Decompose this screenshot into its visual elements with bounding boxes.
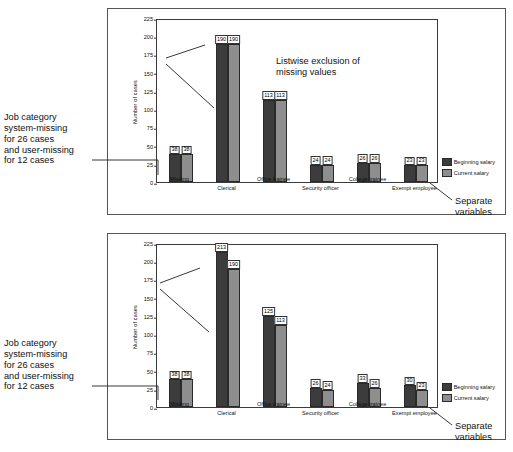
bar-value-label: 113: [274, 316, 287, 325]
y-tick-mark: [154, 38, 157, 39]
legend-swatch: [442, 394, 452, 402]
bar-beginning-salary[interactable]: 24: [310, 165, 322, 182]
legend-item[interactable]: Current salary: [442, 394, 495, 402]
x-axis-category-label: Missing: [170, 177, 189, 183]
x-axis-category-label: Office trainee: [257, 402, 290, 408]
bar-value-label: 24: [310, 156, 321, 165]
bar-current-salary[interactable]: 113: [275, 100, 287, 182]
y-axis-tick: 175: [113, 54, 157, 60]
bar-value-label: 24: [322, 156, 333, 165]
y-axis-tick: 150: [113, 297, 157, 303]
bar-group: 2624: [298, 388, 345, 407]
x-axis-category-label: College trainee: [349, 177, 387, 183]
y-axis-tick: 200: [113, 260, 157, 266]
x-axis-category-label: Security officer: [302, 186, 339, 192]
y-axis-title-bottom: Number of cases: [132, 305, 138, 349]
legend-item[interactable]: Beginning salary: [442, 158, 495, 166]
legend-item[interactable]: Beginning salary: [442, 383, 495, 391]
y-axis-tick: 150: [113, 72, 157, 78]
bar-value-label: 30: [404, 377, 415, 386]
bar-value-label: 26: [310, 379, 321, 388]
y-tick-mark: [154, 184, 157, 185]
bar-beginning-salary[interactable]: 190: [216, 44, 228, 182]
bar-value-label: 190: [227, 35, 241, 44]
bar-value-label: 213: [215, 243, 229, 252]
x-axis-line-bottom: [157, 407, 437, 408]
y-tick-mark: [154, 111, 157, 112]
bar-value-label: 23: [404, 157, 415, 166]
bar-current-salary[interactable]: 23: [416, 390, 428, 407]
bar-value-label: 24: [322, 381, 333, 390]
y-axis-tick: 225: [113, 242, 157, 248]
y-tick-mark: [154, 147, 157, 148]
y-tick-mark: [154, 354, 157, 355]
plot-area-top: 0255075100125150175200225383819019011311…: [156, 19, 438, 183]
bar-value-label: 38: [169, 371, 180, 380]
y-tick-mark: [154, 263, 157, 264]
legend-label: Beginning salary: [454, 384, 495, 390]
legend-swatch: [442, 169, 452, 177]
figure-root: 0255075100125150175200225383819019011311…: [0, 0, 513, 452]
y-axis-tick: 225: [113, 17, 157, 23]
y-axis-tick: 75: [113, 127, 157, 133]
y-tick-mark: [154, 281, 157, 282]
x-axis-line-top: [157, 182, 437, 183]
legend-bottom: Beginning salaryCurrent salary: [442, 383, 495, 405]
bar-group: 213190: [204, 252, 251, 407]
y-axis-tick: 200: [113, 35, 157, 41]
bar-group: 125113: [251, 316, 298, 407]
x-axis-category-label: Security officer: [302, 411, 339, 417]
bar-value-label: 125: [262, 307, 276, 316]
bar-group: 113113: [251, 100, 298, 182]
bar-beginning-salary[interactable]: 125: [263, 316, 275, 407]
bar-value-label: 26: [369, 379, 380, 388]
y-axis-title-top: Number of cases: [132, 80, 138, 124]
legend-swatch: [442, 158, 452, 166]
x-axis-category-label: Office trainee: [257, 177, 290, 183]
x-axis-category-label: Missing: [170, 402, 189, 408]
y-tick-mark: [154, 245, 157, 246]
bar-current-salary[interactable]: 113: [275, 325, 287, 407]
bar-current-salary[interactable]: 190: [228, 44, 240, 182]
bar-current-salary[interactable]: 24: [322, 165, 334, 182]
x-axis-category-label: Exempt employee: [392, 186, 437, 192]
caption-separate-variables-top: Separate variables: [455, 196, 492, 218]
y-tick-mark: [154, 20, 157, 21]
y-axis-tick: 50: [113, 145, 157, 151]
y-tick-mark: [154, 299, 157, 300]
y-tick-mark: [154, 74, 157, 75]
bar-value-label: 26: [357, 154, 368, 163]
bar-current-salary[interactable]: 23: [416, 165, 428, 182]
bar-value-label: 26: [369, 154, 380, 163]
plot-area-bottom: 0255075100125150175200225383821319012511…: [156, 244, 438, 408]
bar-current-salary[interactable]: 24: [322, 390, 334, 407]
bar-beginning-salary[interactable]: 23: [404, 165, 416, 182]
bar-value-label: 33: [357, 374, 368, 383]
x-axis-category-label: Clerical: [217, 411, 236, 417]
legend-top: Beginning salaryCurrent salary: [442, 158, 495, 180]
bar-beginning-salary[interactable]: 26: [310, 388, 322, 407]
caption-job-category-missing-top: Job category system-missing for 26 cases…: [4, 112, 74, 166]
plot-inner-bottom: 0255075100125150175200225383821319012511…: [157, 245, 437, 408]
bar-group: 3023: [392, 385, 439, 407]
bar-beginning-salary[interactable]: 213: [216, 252, 228, 407]
bar-group: 190190: [204, 44, 251, 182]
bar-beginning-salary[interactable]: 30: [404, 385, 416, 407]
plot-inner-top: 0255075100125150175200225383819019011311…: [157, 20, 437, 183]
legend-label: Beginning salary: [454, 159, 495, 165]
y-axis-tick: 75: [113, 352, 157, 358]
legend-swatch: [442, 383, 452, 391]
bar-value-label: 38: [181, 146, 192, 155]
x-axis-category-label: Clerical: [217, 186, 236, 192]
bar-beginning-salary[interactable]: 113: [263, 100, 275, 182]
y-tick-mark: [154, 129, 157, 130]
x-axis-category-label: College trainee: [349, 402, 387, 408]
caption-job-category-missing-bottom: Job category system-missing for 26 cases…: [4, 338, 74, 392]
bar-current-salary[interactable]: 190: [228, 269, 240, 407]
chart-panel-variable-by-variable: 0255075100125150175200225383821319012511…: [107, 233, 506, 440]
annotation-listwise: Listwise exclusion of missing values: [276, 56, 360, 78]
y-axis-tick: 0: [113, 406, 157, 412]
bar-value-label: 113: [274, 91, 287, 100]
legend-item[interactable]: Current salary: [442, 169, 495, 177]
bar-group: 2323: [392, 165, 439, 182]
